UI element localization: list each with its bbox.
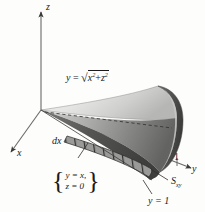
radical-sign-icon: √ (81, 71, 88, 85)
system-rows: y = x, z = 0 (64, 170, 87, 193)
cone-volume-figure: z x y 1 y = √x2+z2 dx { y = x, z = 0 } S… (0, 0, 205, 212)
system-row-two: z = 0 (65, 181, 86, 192)
equation-equals: = (73, 72, 79, 83)
surface-equation-label: y = √x2+z2 (66, 70, 109, 84)
x-axis (11, 110, 41, 152)
system-row-one: y = x, (65, 170, 86, 181)
radicand-term-two-exponent: 2 (105, 71, 108, 78)
cross-section-subscript: xy (176, 181, 182, 188)
differential-dx-label: dx (52, 136, 61, 146)
y-axis-tick-label-one: 1 (174, 152, 179, 162)
leader-line-plane (143, 180, 152, 194)
radicand: x2+z2 (88, 70, 109, 84)
y-axis-label: y (192, 164, 196, 174)
generator-system-label: { y = x, z = 0 } (52, 170, 100, 193)
z-axis-label: z (46, 2, 50, 12)
x-axis-label: x (17, 148, 21, 158)
open-brace: { (52, 171, 64, 191)
close-brace: } (87, 171, 99, 191)
cross-section-label: Sxy (171, 176, 182, 188)
plane-label: y = 1 (148, 196, 169, 206)
